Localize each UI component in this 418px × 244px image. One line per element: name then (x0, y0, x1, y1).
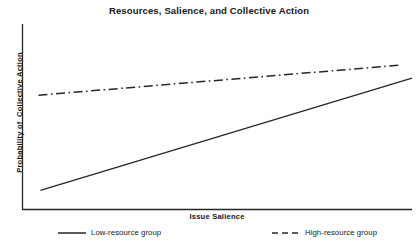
legend-item-high-resource-group: High-resource group (272, 226, 377, 240)
series-line-high-resource-group (38, 65, 399, 95)
plot-area (0, 0, 418, 244)
series-line-low-resource-group (40, 78, 412, 190)
legend-label-high-resource-group: High-resource group (305, 226, 377, 240)
chart-figure: Resources, Salience, and Collective Acti… (0, 0, 418, 244)
legend-swatch-solid-icon (58, 228, 86, 238)
x-axis-label: Issue Salience (22, 212, 412, 221)
legend-label-low-resource-group: Low-resource group (91, 226, 161, 240)
legend: Low-resource group High-resource group (22, 226, 412, 240)
legend-item-low-resource-group: Low-resource group (58, 226, 161, 240)
legend-swatch-dashed-icon (272, 228, 300, 238)
